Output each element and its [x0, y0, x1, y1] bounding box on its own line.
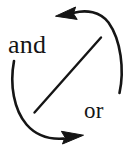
label-or: or — [84, 99, 104, 122]
bottom-arrowhead-icon — [61, 131, 83, 144]
cycle-diagram: and or — [0, 0, 132, 150]
top-arrowhead-icon — [56, 7, 78, 19]
diagram-canvas — [0, 0, 132, 150]
label-and: and — [8, 32, 46, 58]
top-arc-path — [74, 11, 122, 93]
bottom-arc-path — [12, 61, 63, 139]
